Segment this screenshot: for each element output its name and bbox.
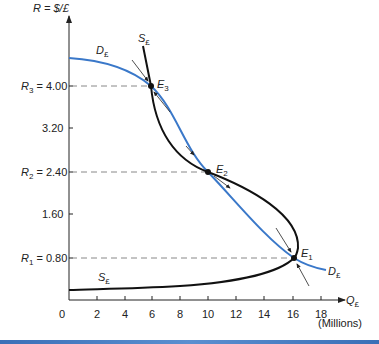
e3-label: E3 (157, 78, 169, 93)
svg-text:6: 6 (149, 308, 155, 320)
forex-market-chart: R = $/£ Q£ (Millions) 0 2 4 6 8 10 12 14… (0, 0, 379, 344)
e1-label: E1 (301, 247, 313, 262)
demand-label-bottom: D£ (328, 265, 341, 280)
supply-label-top: S£ (138, 32, 150, 47)
y-label-r2: R2 = 2.40 (21, 166, 67, 181)
svg-text:10: 10 (202, 308, 214, 320)
x-ticks (97, 296, 321, 300)
demand-curve (69, 58, 326, 270)
y-label-r1: R1 = 0.80 (21, 252, 67, 267)
x-tick-labels: 2 4 6 8 10 12 14 16 18 (94, 308, 327, 320)
y-label-r3: R3 = 4.00 (21, 80, 67, 95)
svg-text:18: 18 (315, 308, 327, 320)
supply-curve (69, 46, 298, 290)
svg-text:8: 8 (177, 308, 183, 320)
demand-label-top: D£ (96, 44, 109, 59)
svg-text:16: 16 (287, 308, 299, 320)
x-axis-title: Q£ (346, 294, 360, 309)
svg-text:12: 12 (230, 308, 242, 320)
equilibrium-e3 (148, 83, 154, 89)
equilibrium-e2 (205, 169, 211, 175)
bottom-band (0, 340, 379, 344)
svg-text:4: 4 (122, 308, 128, 320)
equilibrium-e1 (291, 255, 297, 261)
y-label-320: 3.20 (42, 122, 63, 134)
y-axis-title: R = $/£ (33, 2, 70, 14)
y-label-160: 1.60 (42, 208, 63, 220)
origin-label: 0 (59, 308, 65, 320)
supply-label-bottom: S£ (98, 271, 110, 286)
svg-text:2: 2 (94, 308, 100, 320)
svg-text:14: 14 (258, 308, 270, 320)
reference-dashes (71, 86, 293, 258)
